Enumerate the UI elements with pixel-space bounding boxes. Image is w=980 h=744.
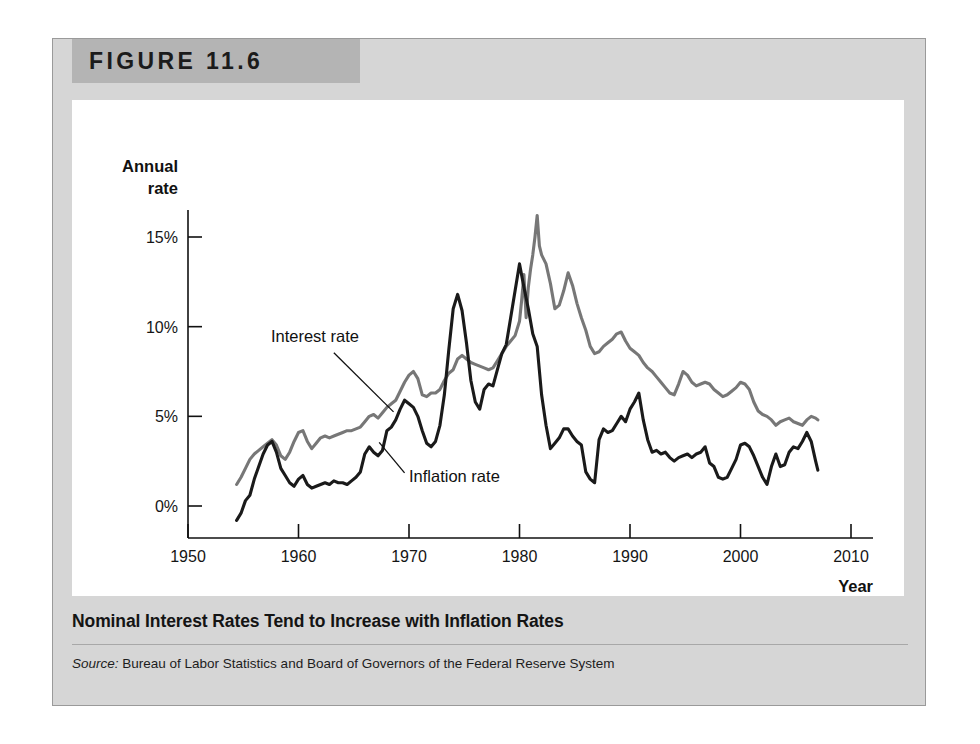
x-tick-label: 1990 — [612, 548, 648, 565]
figure-number-label: FIGURE 11.6 — [89, 48, 263, 75]
figure-number-band: FIGURE 11.6 — [72, 39, 360, 83]
figure-panel: FIGURE 11.6 0%5%10%15%195019601970198019… — [52, 38, 926, 706]
y-tick-label: 5% — [155, 408, 178, 425]
axes-group — [188, 210, 873, 538]
plot-series-group — [237, 215, 818, 520]
x-axis-title: Year — [838, 577, 873, 595]
y-tick-label: 0% — [155, 498, 178, 515]
annotations-group: Interest rateInflation rate — [271, 327, 500, 485]
y-tick-label: 15% — [146, 229, 178, 246]
line-chart: 0%5%10%15%1950196019701980199020002010 I… — [72, 100, 904, 596]
series-line — [237, 215, 818, 484]
chart-annotation-label: Inflation rate — [409, 467, 500, 485]
x-tick-label: 1950 — [170, 548, 206, 565]
axis-titles-group: AnnualrateYear — [122, 157, 873, 595]
x-tick-label: 1980 — [502, 548, 538, 565]
caption-block: Nominal Interest Rates Tend to Increase … — [72, 611, 908, 671]
caption-divider — [72, 644, 908, 645]
x-tick-label: 1970 — [391, 548, 427, 565]
source-word: Source: — [72, 656, 119, 671]
figure-source: Source: Bureau of Labor Statistics and B… — [72, 656, 908, 671]
y-tick-label: 10% — [146, 319, 178, 336]
figure-caption: Nominal Interest Rates Tend to Increase … — [72, 611, 908, 632]
source-text: Bureau of Labor Statistics and Board of … — [119, 656, 615, 671]
y-axis-title-line2: rate — [148, 179, 178, 197]
x-tick-label: 2000 — [723, 548, 759, 565]
chart-annotation-label: Interest rate — [271, 327, 359, 345]
x-tick-label: 1960 — [281, 548, 317, 565]
annotation-leader-line — [379, 442, 404, 472]
annotation-leader-line — [334, 353, 394, 412]
x-tick-label: 2010 — [833, 548, 869, 565]
chart-card: 0%5%10%15%1950196019701980199020002010 I… — [72, 100, 904, 596]
y-axis-title-line1: Annual — [122, 157, 178, 175]
tick-labels-group: 0%5%10%15%1950196019701980199020002010 — [146, 229, 869, 565]
